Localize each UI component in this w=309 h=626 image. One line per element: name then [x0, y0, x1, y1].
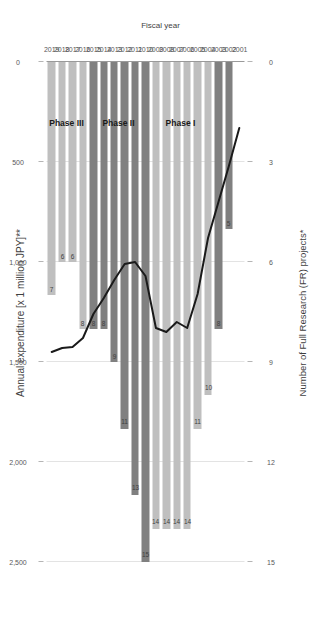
bar-value-label: 14: [163, 518, 170, 525]
bar: [194, 62, 201, 429]
top-axis-tickmark: [39, 161, 44, 162]
bar-row: 8: [99, 62, 109, 562]
bar: [79, 62, 86, 329]
bar-value-label: 6: [71, 253, 75, 260]
bottom-axis-tickmark: [248, 361, 253, 362]
bar-row: 5: [224, 62, 234, 562]
top-axis-tickmark: [39, 261, 44, 262]
bottom-axis-tickmark: [248, 561, 253, 562]
bar-row: 8: [78, 62, 88, 562]
bottom-axis-tick-label: 6: [268, 248, 275, 276]
bar-value-label: 13: [131, 484, 138, 491]
bottom-axis-tickmark: [248, 461, 253, 462]
bar-row: 15: [140, 62, 150, 562]
bar-value-label: 9: [112, 353, 116, 360]
phase-label: Phase III: [61, 88, 71, 158]
bar-value-label: 8: [81, 319, 85, 326]
bar-value-label: 6: [60, 253, 64, 260]
bottom-axis-tick-label: 3: [268, 148, 275, 176]
bar-row: 11: [192, 62, 202, 562]
bar-value-label: 14: [152, 518, 159, 525]
bar-value-label: 11: [121, 418, 128, 425]
top-axis-tickmark: [39, 561, 44, 562]
bar: [90, 62, 97, 329]
plot-area: 151296302,5002,0001,5001,000500072019620…: [47, 62, 245, 562]
bottom-axis-tickmark: [248, 261, 253, 262]
bottom-axis-tickmark: [248, 61, 253, 62]
chart-canvas: Annual expenditure [x 1 million JPY]** N…: [7, 0, 308, 626]
category-tick-label: 2001: [234, 18, 244, 58]
phase-label: Phase II: [113, 88, 123, 158]
bar-value-label: 7: [50, 286, 54, 293]
bar: [163, 62, 170, 529]
bar-row: 8: [213, 62, 223, 562]
bar-value-label: 5: [227, 219, 231, 226]
top-axis-tick-label: 1,500: [15, 344, 22, 380]
bar-row: 7: [47, 62, 57, 562]
bar-value-label: 14: [173, 518, 180, 525]
bar-row: 14: [161, 62, 171, 562]
top-axis-tickmark: [39, 361, 44, 362]
bar-value-label: 8: [217, 319, 221, 326]
top-axis-tick-label: 2,000: [15, 444, 22, 480]
bar-row: 14: [151, 62, 161, 562]
top-axis-tick-label: 0: [15, 44, 22, 80]
top-axis-tickmark: [39, 61, 44, 62]
bar-row: 13: [130, 62, 140, 562]
bar-value-label: 11: [194, 418, 201, 425]
bar-value-label: 15: [142, 551, 149, 558]
bottom-axis-title: Number of Full Research (FR) projects*: [297, 0, 308, 626]
bottom-axis-tick-label: 9: [268, 348, 275, 376]
top-axis-tick-label: 2,500: [15, 544, 22, 580]
bar-value-label: 10: [204, 384, 211, 391]
bottom-axis-tick-label: 15: [268, 548, 275, 576]
bar: [100, 62, 107, 329]
phase-label: Phase I: [176, 88, 186, 158]
top-axis-tick-label: 1,000: [15, 244, 22, 280]
top-axis-tick-label: 500: [15, 144, 22, 180]
top-axis-tickmark: [39, 461, 44, 462]
bar: [142, 62, 149, 562]
bottom-axis-tick-label: 12: [268, 448, 275, 476]
bar: [204, 62, 211, 395]
bar: [215, 62, 222, 329]
bottom-axis-tick-label: 0: [268, 48, 275, 76]
bar: [152, 62, 159, 529]
bar-row: 10: [203, 62, 213, 562]
bar: [48, 62, 55, 295]
bar-value-label: 14: [184, 518, 191, 525]
bar-row: [234, 62, 244, 562]
bar-value-label: 8: [92, 319, 96, 326]
bar-value-label: 8: [102, 319, 106, 326]
bar-row: 8: [88, 62, 98, 562]
top-axis-title: Annual expenditure [x 1 million JPY]**: [15, 0, 26, 626]
bottom-axis-tickmark: [248, 161, 253, 162]
bar: [225, 62, 232, 229]
